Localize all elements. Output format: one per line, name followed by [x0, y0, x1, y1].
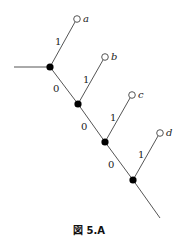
leaf-node-c: [129, 92, 136, 99]
edge-label-n2-b: 1: [83, 74, 89, 85]
edge-label-n1-a: 1: [55, 36, 61, 47]
edge-n4-d: [133, 136, 158, 180]
leaf-label-a: a: [83, 13, 89, 24]
edge-label-n4-d: 1: [138, 149, 144, 160]
edge-n3-c: [105, 98, 130, 142]
leaf-label-c: c: [138, 89, 144, 100]
edge-label-n3-c: 1: [110, 112, 116, 123]
edge-label-n2-n3: 0: [81, 121, 87, 132]
edge-n1-a: [50, 22, 75, 67]
internal-node-4: [129, 176, 136, 183]
internal-node-2: [74, 100, 81, 107]
edge-label-n1-n2: 0: [53, 83, 59, 94]
leaf-label-d: d: [166, 127, 172, 138]
internal-node-1: [46, 63, 53, 70]
figure-caption: 図 5.A: [73, 225, 105, 236]
edge-n2-b: [78, 60, 103, 104]
edge-label-n3-n4: 0: [108, 159, 114, 170]
binary-tree-diagram: a b c d 1 0 1 0 1 0 1 図 5.A: [0, 0, 182, 241]
edge-n4-out: [133, 180, 160, 218]
leaf-label-b: b: [111, 51, 117, 62]
internal-node-3: [101, 138, 108, 145]
leaf-node-b: [102, 54, 109, 61]
leaf-node-a: [74, 16, 81, 23]
leaf-node-d: [157, 130, 164, 137]
